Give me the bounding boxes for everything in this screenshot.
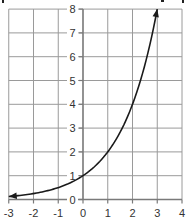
x-tick-label: -2: [29, 207, 39, 219]
x-tick-label: -3: [4, 207, 14, 219]
y-tick-label: 5: [69, 75, 75, 87]
y-tick-label: 0: [69, 194, 75, 206]
y-tick-label: 8: [69, 3, 75, 15]
x-tick-label: 0: [80, 207, 86, 219]
cropped-title-fragments: [2, 0, 184, 3]
exponential-graph: 012345678 -3-2-101234: [0, 0, 189, 223]
x-tick-label: -1: [53, 207, 63, 219]
y-tick-label: 3: [69, 122, 75, 134]
x-axis-tick-labels: -3-2-101234: [4, 207, 185, 219]
x-tick-label: 1: [105, 207, 111, 219]
grid-lines: [9, 9, 182, 199]
y-tick-label: 2: [69, 146, 75, 158]
x-tick-label: 3: [154, 207, 160, 219]
axes: [9, 9, 182, 203]
y-axis-tick-labels: 012345678: [67, 3, 78, 205]
y-tick-label: 6: [69, 51, 75, 63]
x-tick-label: 2: [129, 207, 135, 219]
arrowhead-top-icon: [153, 9, 159, 17]
y-tick-label: 7: [69, 27, 75, 39]
x-tick-label: 4: [179, 207, 185, 219]
y-tick-label: 4: [69, 98, 75, 110]
